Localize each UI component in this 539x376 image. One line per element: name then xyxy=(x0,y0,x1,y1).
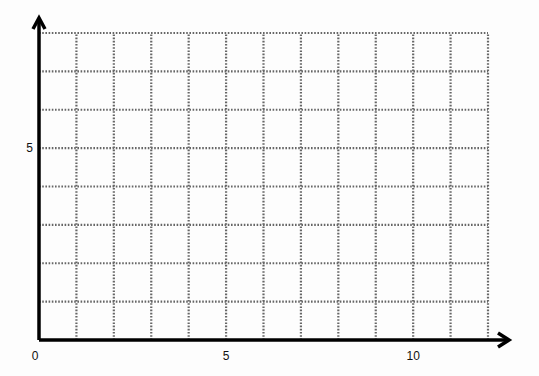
y-tick-label: 5 xyxy=(26,141,33,155)
x-tick-label: 0 xyxy=(32,349,39,363)
axes xyxy=(33,18,509,347)
gridlines xyxy=(39,33,488,340)
tick-labels: 05105 xyxy=(26,141,420,363)
x-tick-label: 10 xyxy=(406,349,420,363)
coordinate-grid: 05105 xyxy=(0,0,539,376)
x-tick-label: 5 xyxy=(223,349,230,363)
